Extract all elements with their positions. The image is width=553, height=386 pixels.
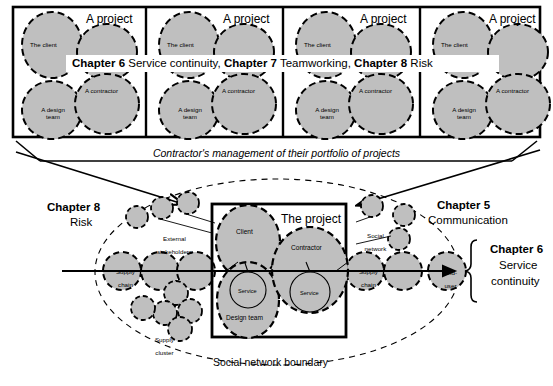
chapter8-label-head: Chapter 8 xyxy=(47,201,100,213)
connector-left xyxy=(16,152,183,204)
chapter5-label-sub: Communication xyxy=(428,214,508,226)
social-network-line2: network xyxy=(365,245,387,252)
external-stakeholders-line1: External xyxy=(163,235,186,242)
chapter6-label-sub1: Service xyxy=(499,259,537,271)
portfolio-panel-2-node-client: The client xyxy=(167,42,194,49)
portfolio-panel-3-node-contractor: A contractor xyxy=(359,88,392,95)
portfolio-panel-4-node-design-team: A designteam xyxy=(445,107,483,120)
node-label-supply-chain-right: Supply chain xyxy=(344,262,386,295)
portfolio-panel-4-node-client: The client xyxy=(441,42,468,49)
external-stakeholder-nodes xyxy=(126,192,215,233)
portfolio-panel-1-node-client: The client xyxy=(30,42,57,49)
node-label-service-1: Service xyxy=(238,288,257,294)
supply-chain-left-line1: Supply xyxy=(116,268,135,275)
node-label-contractor: Contractor xyxy=(291,244,322,251)
chapter6-label-sub2: continuity xyxy=(491,275,540,287)
diagram-root: A project A project A project A project … xyxy=(0,0,553,386)
supply-cluster-line2: cluster xyxy=(155,349,173,356)
supply-chain-right-line1: Supply xyxy=(359,268,378,275)
portfolio-caption: Contractor's management of their portfol… xyxy=(0,147,553,159)
node-label-service-2: Service xyxy=(300,290,319,296)
portfolio-panel-4-title: A project xyxy=(489,12,536,26)
social-network-boundary-label: Social network boundary xyxy=(213,357,328,368)
portfolio-panel-2-node-design-team: A designteam xyxy=(171,107,209,120)
chapter5-label-head: Chapter 5 xyxy=(437,199,490,211)
annotation-external-stakeholders: External stakeholders xyxy=(140,229,202,262)
social-network-line1: Social xyxy=(367,232,384,239)
annotation-supply-cluster: Supply cluster xyxy=(139,330,183,363)
supply-chain-right-line2: chain xyxy=(361,281,376,288)
chapter8-label-sub: Risk xyxy=(70,216,92,228)
portfolio-panel-4-node-contractor: A contractor xyxy=(496,88,529,95)
chapter6-brace xyxy=(465,240,477,302)
supply-cluster-line1: Supply xyxy=(155,336,174,343)
end-user-line1: End- xyxy=(444,269,457,276)
end-user-line2: user xyxy=(444,282,456,289)
portfolio-panel-3-title: A project xyxy=(360,12,407,26)
portfolio-panel-1-title: A project xyxy=(86,12,133,26)
portfolio-panel-1-node-design-team: A designteam xyxy=(34,107,72,120)
annotation-social-network: Social network xyxy=(352,226,392,259)
portfolio-panel-3-node-design-team: A designteam xyxy=(308,107,346,120)
portfolio-panel-1-node-contractor: A contractor xyxy=(85,88,118,95)
project-box-label: The project xyxy=(281,212,341,226)
node-label-supply-chain-left: Supply chain xyxy=(101,262,143,295)
node-label-end-user: End- user xyxy=(430,263,464,296)
portfolio-panel-3-node-client: The client xyxy=(304,42,331,49)
portfolio-panel-2-title: A project xyxy=(223,12,270,26)
chapter-banner: Chapter 6 Service continuity, Chapter 7 … xyxy=(66,55,499,72)
node-label-design-team: Design team xyxy=(226,314,263,321)
external-stakeholders-line2: stakeholders xyxy=(157,248,192,255)
chapter6-label-head: Chapter 6 xyxy=(490,243,543,255)
node-label-client: Client xyxy=(236,228,253,235)
supply-chain-left-line2: chain xyxy=(118,281,133,288)
portfolio-panel-2-node-contractor: A contractor xyxy=(222,88,255,95)
